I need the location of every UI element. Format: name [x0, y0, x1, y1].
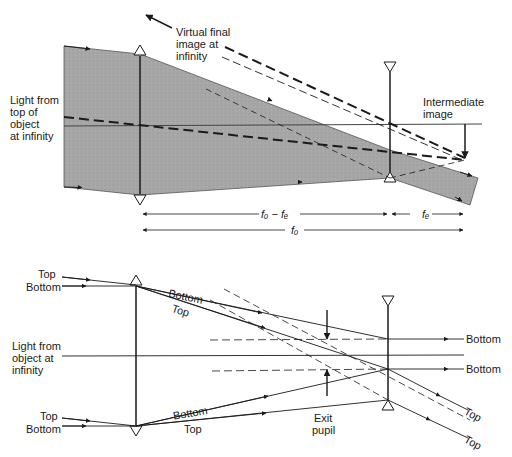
label-virtual-image-2: image at: [176, 38, 218, 50]
dimension-lines: [143, 214, 463, 230]
bottom-diagram: [62, 275, 470, 438]
dim-fe: fₑ: [420, 208, 431, 220]
label-lm-top: Top: [184, 423, 202, 435]
label-virtual-image-1: Virtual final: [176, 26, 230, 38]
label-right-bottom-2: Bottom: [466, 363, 501, 375]
label-ll-top: Top: [40, 410, 58, 422]
label-intermediate-1: Intermediate: [423, 96, 484, 108]
label-ll-bottom: Bottom: [26, 423, 61, 435]
optical-axis-bottom: [62, 355, 464, 356]
dim-fo-minus-fe: fₒ − fₑ: [259, 208, 290, 220]
eyepiece-lens-bottom: [382, 296, 394, 410]
virtual-image-arrow: [146, 15, 172, 28]
label-light-top-4: at infinity: [10, 130, 53, 142]
label-right-bottom-1: Bottom: [466, 333, 501, 345]
dim-fo: fₒ: [289, 224, 300, 236]
telescope-diagram: [0, 0, 512, 457]
top-diagram: [64, 15, 482, 230]
label-light-top-1: Light from: [10, 94, 59, 106]
label-light-bottom-2: object at: [12, 352, 54, 364]
label-exit-pupil-1: Exit: [314, 412, 332, 424]
label-light-top-3: object: [10, 118, 39, 130]
label-virtual-image-3: infinity: [176, 50, 207, 62]
label-light-bottom-3: infinity: [12, 364, 43, 376]
label-exit-pupil-2: pupil: [312, 424, 335, 436]
label-light-top-2: top of: [10, 106, 38, 118]
label-light-bottom-1: Light from: [12, 340, 61, 352]
label-intermediate-2: image: [423, 108, 453, 120]
label-ul-top: Top: [38, 268, 56, 280]
label-ul-bottom: Bottom: [26, 281, 61, 293]
